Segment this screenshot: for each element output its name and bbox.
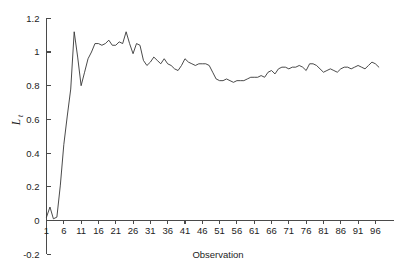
x-axis-title-group: Observation <box>192 249 243 260</box>
x-tick-label: 91 <box>353 225 364 236</box>
x-tick-label: 6 <box>61 225 66 236</box>
x-tick-label: 56 <box>232 225 243 236</box>
x-tick-label: 36 <box>162 225 173 236</box>
x-tick-label: 26 <box>128 225 139 236</box>
x-tick-label: 41 <box>180 225 191 236</box>
x-tick-label: 96 <box>370 225 381 236</box>
x-tick-label: 86 <box>335 225 346 236</box>
y-tick-label: 1 <box>34 46 39 57</box>
x-tick-label: 61 <box>249 225 260 236</box>
y-tick-label: 1.2 <box>26 13 39 24</box>
x-tick-label: 1 <box>44 225 49 236</box>
x-tick-label: 31 <box>145 225 156 236</box>
x-tick-label: 66 <box>266 225 277 236</box>
x-tick-label: 81 <box>318 225 329 236</box>
line-chart-canvas: 1.210.80.60.40.20-0.2 161116212631364146… <box>0 0 418 270</box>
y-tick-label: -0.2 <box>23 249 39 260</box>
chart-figure: 1.210.80.60.40.20-0.2 161116212631364146… <box>0 0 418 270</box>
y-axis-title: L <box>10 119 22 126</box>
x-tick-label: 71 <box>284 225 295 236</box>
y-tick-label: 0.6 <box>26 114 39 125</box>
x-tick-label: 76 <box>301 225 312 236</box>
x-tick-label: 11 <box>76 225 86 236</box>
x-tick-label: 46 <box>197 225 208 236</box>
y-tick-label: 0.2 <box>26 181 39 192</box>
y-tick-label: 0.8 <box>26 80 39 91</box>
y-tick-label: 0 <box>34 215 39 226</box>
x-tick-label: 21 <box>110 225 121 236</box>
y-tick-label: 0.4 <box>26 148 39 159</box>
x-tick-label: 51 <box>214 225 225 236</box>
x-axis-title: Observation <box>192 249 243 260</box>
x-tick-label: 16 <box>93 225 104 236</box>
